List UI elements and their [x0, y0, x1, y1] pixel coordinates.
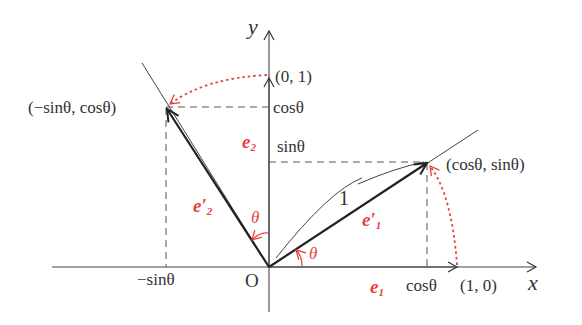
unit-length-label: 1	[339, 188, 349, 208]
x-axis-label: x	[528, 272, 538, 294]
y-tick-cos-theta: cosθ	[273, 99, 304, 116]
point-e2-end-label: (0, 1)	[275, 68, 312, 85]
projection-lines	[166, 107, 427, 267]
point-e2-rotated-label: (−sinθ, cosθ)	[28, 99, 116, 116]
e2-prime-subscript: 2	[207, 205, 213, 217]
e1-subscript: 1	[378, 286, 384, 298]
unit-length-arc-upper	[358, 162, 424, 184]
e1-prime-vector	[269, 163, 427, 267]
angle-arc-theta-1	[296, 250, 302, 266]
x-tick-neg-sin-theta: −sinθ	[137, 271, 175, 288]
y-axis-label: y	[248, 16, 258, 38]
e1-prime-label: e′1	[362, 210, 381, 231]
rotation-arc-e1	[430, 166, 457, 265]
e2-subscript: 2	[250, 141, 256, 153]
theta-label-1: θ	[309, 245, 317, 262]
theta-label-2: θ	[251, 209, 259, 226]
angle-arc-theta-2	[252, 233, 268, 240]
origin-label: O	[245, 271, 259, 290]
y-tick-sin-theta: sinθ	[277, 138, 305, 155]
e1-prime-letter: e′	[362, 209, 376, 230]
rotation-arc-e2	[170, 75, 267, 104]
e1-label: e1	[370, 277, 384, 298]
unit-length-arc	[276, 178, 362, 258]
point-e1-end-label: (1, 0)	[460, 277, 497, 294]
point-e1-rotated-label: (cosθ, sinθ)	[446, 156, 525, 173]
e2-label: e2	[242, 132, 256, 153]
e2-prime-label: e′2	[193, 196, 212, 217]
x-tick-cos-theta: cosθ	[406, 277, 437, 294]
e2-prime-letter: e′	[193, 195, 207, 216]
e1-prime-subscript: 1	[376, 219, 382, 231]
